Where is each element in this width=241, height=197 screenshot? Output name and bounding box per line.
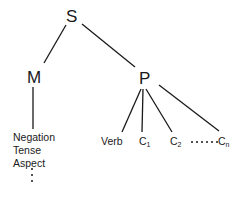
leaf-cn: Cn [218, 136, 230, 148]
edge-p-c2 [146, 89, 172, 132]
leaf-c1: C1 [139, 136, 151, 148]
feature-negation: Negation [13, 131, 55, 144]
node-s: S [66, 8, 77, 25]
edge-s-p [82, 24, 135, 67]
edge-p-verb [122, 89, 141, 132]
feature-aspect: Aspect [13, 157, 55, 170]
edge-p-cn [159, 85, 219, 131]
m-feature-list: Negation Tense Aspect [13, 131, 55, 170]
edge-s-m [44, 25, 66, 63]
leaf-verb: Verb [101, 136, 123, 147]
node-m: M [27, 69, 41, 86]
leaf-c2: C2 [170, 136, 182, 148]
node-p: P [139, 70, 150, 87]
horizontal-ellipsis [191, 141, 218, 143]
vertical-ellipsis [31, 168, 34, 186]
edge-p-c1 [142, 89, 143, 132]
feature-tense: Tense [13, 144, 55, 157]
